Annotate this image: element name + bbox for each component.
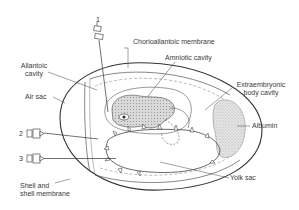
albumin [213,100,245,158]
label-allantoic-cavity: Allantoic cavity [17,62,51,78]
label-shell-and-membrane: Shell and shell membrane [20,182,70,198]
needle-2-number: 2 [19,130,23,138]
label-air-sac: Air sac [25,93,46,101]
needle-3-number: 3 [19,155,23,163]
label-amniotic-cavity: Amniotic cavity [165,54,212,62]
label-yolk-sac: Yolk sac [230,174,256,182]
label-extraembryonic-body-cavity: Extraembryonic body cavity [233,81,289,97]
embryo [112,95,174,128]
yolk-sac [106,129,220,172]
label-albumin: Albumin [252,122,277,130]
needle-1-number: 1 [96,16,100,24]
needle-3 [27,154,116,163]
label-chorioallantoic-membrane: Chorioallantoic membrane [133,38,215,46]
